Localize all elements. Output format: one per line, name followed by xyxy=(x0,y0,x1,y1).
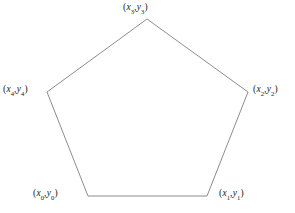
vertex-label-v2: (x2,y2) xyxy=(253,85,278,96)
paren-close: ) xyxy=(274,84,277,94)
y-subscript: 3 xyxy=(141,8,144,15)
x-subscript: 3 xyxy=(131,8,134,15)
paren-close: ) xyxy=(144,2,147,12)
y-subscript: 4 xyxy=(21,90,24,97)
pentagon-shape xyxy=(0,0,295,213)
vertex-label-v4: (x4,y4) xyxy=(3,85,28,96)
x-subscript: 0 xyxy=(41,194,44,201)
vertex-label-v3: (x3,y3) xyxy=(123,3,148,14)
pentagon-outline xyxy=(47,19,248,196)
y-subscript: 1 xyxy=(237,194,240,201)
x-subscript: 1 xyxy=(227,194,230,201)
paren-close: ) xyxy=(24,84,27,94)
y-subscript: 2 xyxy=(271,90,274,97)
vertex-label-v0: (x0,y0) xyxy=(33,189,58,200)
x-subscript: 2 xyxy=(261,90,264,97)
pentagon-figure: (x3,y3) (x2,y2) (x1,y1) (x0,y0) (x4,y4) xyxy=(0,0,295,213)
y-subscript: 0 xyxy=(51,194,54,201)
paren-close: ) xyxy=(54,188,57,198)
vertex-label-v1: (x1,y1) xyxy=(219,189,244,200)
x-subscript: 4 xyxy=(11,90,14,97)
paren-close: ) xyxy=(240,188,243,198)
